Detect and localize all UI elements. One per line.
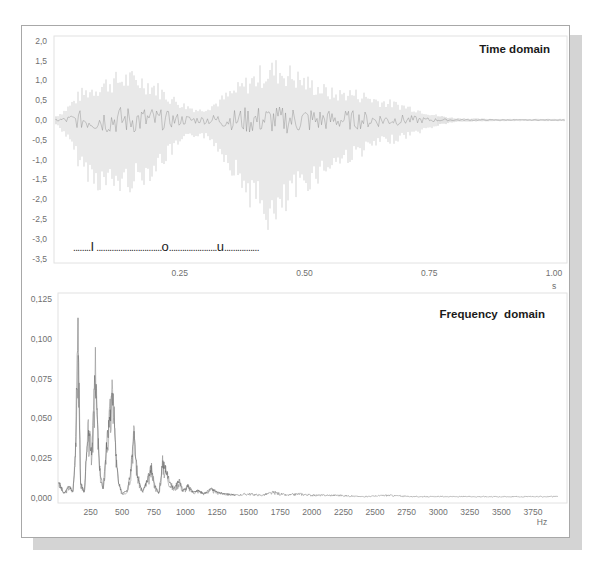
y-tick-label: -3,5 bbox=[32, 254, 47, 264]
y-tick-label: -1,0 bbox=[32, 155, 47, 165]
vowel-label: u bbox=[217, 239, 224, 254]
x-tick-label: 0.25 bbox=[171, 268, 188, 278]
x-tick-label: 500 bbox=[115, 507, 129, 517]
time-y-axis-ticks: 2,01,51,00,50,0-0,5-1,0-1,5-2,0-2,5-3,0-… bbox=[32, 36, 47, 264]
x-tick-label: 3250 bbox=[460, 507, 479, 517]
vowel-label: o bbox=[162, 239, 169, 254]
y-tick-label: 0,100 bbox=[31, 334, 53, 344]
y-tick-label: 0,5 bbox=[35, 95, 47, 105]
x-tick-label: 1500 bbox=[239, 507, 258, 517]
frequency-domain-title: Frequency domain bbox=[440, 308, 545, 320]
y-tick-label: -0,5 bbox=[32, 135, 47, 145]
time-plot-area bbox=[54, 36, 567, 263]
dotted-leader: ................ bbox=[224, 242, 259, 253]
x-tick-label: 3000 bbox=[429, 507, 448, 517]
time-x-axis-ticks: 0.250.500.751.00 bbox=[171, 268, 562, 278]
y-tick-label: 0,075 bbox=[31, 374, 53, 384]
x-tick-label: 0.75 bbox=[421, 268, 438, 278]
x-tick-label: 1000 bbox=[176, 507, 195, 517]
dotted-leader: ........ bbox=[73, 242, 90, 253]
y-tick-label: -3,0 bbox=[32, 234, 47, 244]
y-tick-label: -1,5 bbox=[32, 174, 47, 184]
dotted-leader: ...................... bbox=[169, 242, 217, 253]
y-tick-label: 2,0 bbox=[35, 36, 47, 46]
y-tick-label: 0,025 bbox=[31, 453, 53, 463]
x-tick-label: 3750 bbox=[524, 507, 543, 517]
x-tick-label: 2250 bbox=[334, 507, 353, 517]
x-tick-label: 2500 bbox=[366, 507, 385, 517]
y-tick-label: 0,0 bbox=[35, 115, 47, 125]
time-domain-title: Time domain bbox=[479, 43, 550, 55]
x-tick-label: 1750 bbox=[271, 507, 290, 517]
y-tick-label: 0,000 bbox=[31, 493, 53, 503]
figure: 2,01,51,00,50,0-0,5-1,0-1,5-2,0-2,5-3,0-… bbox=[0, 0, 598, 564]
frequency-domain-chart: 0,1250,1000,0750,0500,0250,000 250500750… bbox=[31, 293, 567, 527]
x-tick-label: 0.50 bbox=[296, 268, 313, 278]
y-tick-label: 1,0 bbox=[35, 75, 47, 85]
y-tick-label: -2,0 bbox=[32, 194, 47, 204]
y-tick-label: -2,5 bbox=[32, 214, 47, 224]
y-tick-label: 1,5 bbox=[35, 56, 47, 66]
vowel-annotation: ........I ..............................… bbox=[73, 239, 259, 254]
y-tick-label: 0,125 bbox=[31, 294, 53, 304]
dotted-leader: .............................. bbox=[94, 242, 162, 253]
x-tick-label: 2000 bbox=[302, 507, 321, 517]
time-x-unit-label: s bbox=[552, 281, 556, 291]
x-tick-label: 2750 bbox=[397, 507, 416, 517]
frequency-x-unit-label: Hz bbox=[537, 517, 547, 527]
frequency-x-axis-ticks: 2505007501000125015001750200022502500275… bbox=[84, 507, 543, 517]
y-tick-label: 0,050 bbox=[31, 413, 53, 423]
time-domain-chart: 2,01,51,00,50,0-0,5-1,0-1,5-2,0-2,5-3,0-… bbox=[32, 36, 567, 291]
x-tick-label: 3500 bbox=[492, 507, 511, 517]
frequency-y-axis-ticks: 0,1250,1000,0750,0500,0250,000 bbox=[31, 294, 53, 503]
x-tick-label: 750 bbox=[147, 507, 161, 517]
x-tick-label: 1.00 bbox=[546, 268, 563, 278]
x-tick-label: 250 bbox=[84, 507, 98, 517]
x-tick-label: 1250 bbox=[208, 507, 227, 517]
frequency-plot-area bbox=[58, 293, 567, 503]
